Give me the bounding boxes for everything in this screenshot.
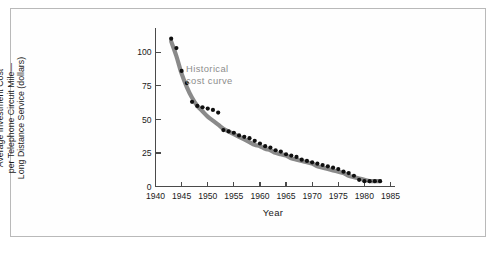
x-tick-label: 1965 <box>276 191 295 201</box>
data-point <box>206 106 210 110</box>
data-point <box>268 145 272 149</box>
data-point <box>247 136 251 140</box>
y-tick-label: 25 <box>142 148 152 158</box>
data-point <box>321 163 325 167</box>
data-point <box>341 170 345 174</box>
data-point <box>258 141 262 145</box>
x-axis-ticks <box>156 182 391 187</box>
data-point <box>216 111 220 115</box>
data-point <box>352 174 356 178</box>
data-point <box>180 69 184 73</box>
x-tick-label: 1950 <box>198 191 217 201</box>
data-point <box>227 129 231 133</box>
figure-root: 1940194519501955196019651970197519801985… <box>0 0 497 255</box>
data-point <box>300 158 304 162</box>
data-point <box>305 159 309 163</box>
data-point <box>289 154 293 158</box>
data-point <box>169 37 173 41</box>
y-tick-label: 100 <box>137 47 152 57</box>
data-point <box>195 104 199 108</box>
y-tick-label: 50 <box>142 115 152 125</box>
x-tick-label: 1980 <box>355 191 374 201</box>
y-axis-ticks <box>156 52 161 186</box>
data-point <box>232 131 236 135</box>
data-point <box>221 128 225 132</box>
data-point <box>315 162 319 166</box>
data-point <box>279 149 283 153</box>
data-point <box>242 135 246 139</box>
x-tick-label-group: 1940194519501955196019651970197519801985 <box>146 191 400 201</box>
data-point <box>294 155 298 159</box>
data-point <box>274 148 278 152</box>
data-point <box>362 179 366 183</box>
data-point <box>253 139 257 143</box>
data-point <box>373 179 377 183</box>
data-point <box>200 105 204 109</box>
x-tick-label: 1985 <box>381 191 400 201</box>
y-axis-title: Average Investment Cost per Telephone Ci… <box>0 28 39 208</box>
data-point <box>310 160 314 164</box>
x-tick-label: 1940 <box>146 191 165 201</box>
curve-annotation: Historical cost curve <box>186 63 233 86</box>
y-tick-label: 75 <box>142 81 152 91</box>
y-tick-label-group: 0255075100 <box>137 47 152 191</box>
data-point <box>357 178 361 182</box>
data-point <box>237 133 241 137</box>
x-tick-label: 1955 <box>224 191 243 201</box>
data-point <box>378 179 382 183</box>
data-point <box>190 100 194 104</box>
data-point <box>368 179 372 183</box>
y-axis-title-line3: Long Distance Service (dollars) <box>16 28 27 208</box>
y-axis-title-line2: per Telephone Circuit Mile— <box>6 28 17 208</box>
x-tick-label: 1960 <box>250 191 269 201</box>
x-tick-label: 1975 <box>329 191 348 201</box>
x-tick-label: 1970 <box>303 191 322 201</box>
data-point <box>347 171 351 175</box>
curve-annotation-line1: Historical <box>186 63 233 75</box>
x-axis-title: Year <box>155 207 391 218</box>
curve-annotation-line2: cost curve <box>186 75 233 87</box>
data-point <box>263 144 267 148</box>
data-point <box>174 46 178 50</box>
data-point <box>331 166 335 170</box>
data-point <box>211 108 215 112</box>
data-point <box>284 152 288 156</box>
x-tick-label: 1945 <box>172 191 191 201</box>
y-tick-label: 0 <box>147 182 152 192</box>
data-point <box>336 167 340 171</box>
data-point <box>326 164 330 168</box>
